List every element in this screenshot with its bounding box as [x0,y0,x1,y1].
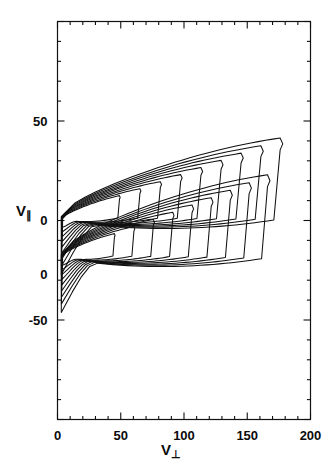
y-tick-label: -50 [29,313,48,328]
y-tick-label: 0 [40,267,47,282]
y-tick-label: 0 [40,213,47,228]
axis-tick-labels: 050100150200500-500 [29,114,322,443]
y-axis-label-base: V [16,202,26,219]
x-axis-label-base: V [161,441,171,458]
x-tick-label: 150 [236,428,258,443]
contour-line [61,175,270,313]
x-tick-label: 0 [54,428,61,443]
x-tick-label: 50 [114,428,128,443]
y-axis-label-subscript: ∥ [26,209,32,221]
y-tick-label: 50 [33,114,47,129]
x-axis-label-subscript: ⊥ [171,448,181,460]
x-axis-label: V⊥ [161,441,181,461]
contour-lines [61,138,282,312]
contour-plot-canvas: 050100150200500-500 [0,0,332,470]
contour-figure: 050100150200500-500 V∥ V⊥ [0,0,332,470]
y-axis-label: V∥ [16,202,32,222]
x-tick-label: 200 [300,428,322,443]
